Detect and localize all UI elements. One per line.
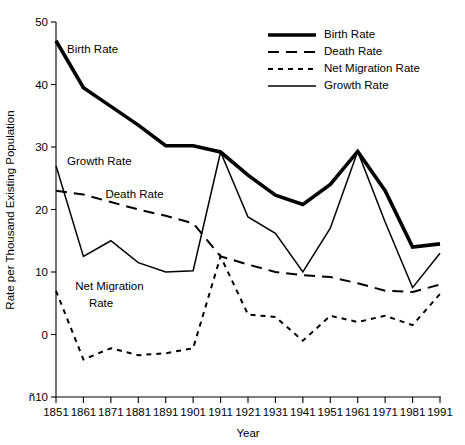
x-axis-tick-labels: 1851186118711881189119011911192119311941… <box>43 406 453 418</box>
x-tick-label: 1901 <box>180 406 206 418</box>
chart-legend: Birth RateDeath RateNet Migration RateGr… <box>268 28 420 91</box>
x-tick-label: 1981 <box>400 406 426 418</box>
legend-label-growth-rate: Growth Rate <box>324 79 389 91</box>
series-line-growth-rate <box>56 151 440 287</box>
x-tick-label: 1911 <box>208 406 233 418</box>
x-tick-label: 1951 <box>317 406 343 418</box>
legend-label-death-rate: Death Rate <box>324 45 382 57</box>
x-tick-label: 1961 <box>345 406 371 418</box>
x-axis-ticks <box>56 397 440 403</box>
x-tick-label: 1921 <box>235 406 261 418</box>
inline-label-death-rate: Death Rate <box>105 188 163 200</box>
figure-caption-partial <box>0 437 465 445</box>
x-tick-label: 1931 <box>263 406 289 418</box>
y-axis-ticks <box>51 22 56 397</box>
y-tick-label: 40 <box>35 79 48 91</box>
x-tick-label: 1891 <box>153 406 179 418</box>
x-tick-label: 1851 <box>43 406 69 418</box>
y-tick-label: 50 <box>35 16 48 28</box>
x-tick-label: 1991 <box>427 406 453 418</box>
population-rates-line-chart: 50403020100ñ10 1851186118711881189119011… <box>0 0 465 445</box>
x-tick-label: 1881 <box>125 406 151 418</box>
x-tick-label: 1861 <box>71 406 97 418</box>
y-tick-label: 10 <box>35 266 48 278</box>
y-axis-tick-labels: 50403020100ñ10 <box>29 16 48 403</box>
x-tick-label: 1941 <box>290 406 316 418</box>
x-tick-label: 1971 <box>372 406 398 418</box>
y-tick-label: 0 <box>42 329 48 341</box>
series-line-net-migration-rate <box>56 256 440 359</box>
series-line-death-rate <box>56 191 440 292</box>
x-tick-label: 1871 <box>98 406 124 418</box>
y-tick-label: 30 <box>35 141 48 153</box>
legend-label-birth-rate: Birth Rate <box>324 28 375 40</box>
legend-label-net-migration-rate: Net Migration Rate <box>324 62 420 74</box>
y-tick-label: 20 <box>35 204 48 216</box>
y-axis-title: Rate per Thousand Existing Population <box>4 110 16 309</box>
inline-label-birth-rate: Birth Rate <box>67 43 118 55</box>
inline-label-growth-rate: Growth Rate <box>67 155 132 167</box>
y-tick-label: ñ10 <box>29 391 48 403</box>
chart-figure: 50403020100ñ10 1851186118711881189119011… <box>0 0 465 445</box>
inline-label-rate: Rate <box>89 297 113 309</box>
inline-label-net-migration: Net Migration <box>75 280 143 292</box>
